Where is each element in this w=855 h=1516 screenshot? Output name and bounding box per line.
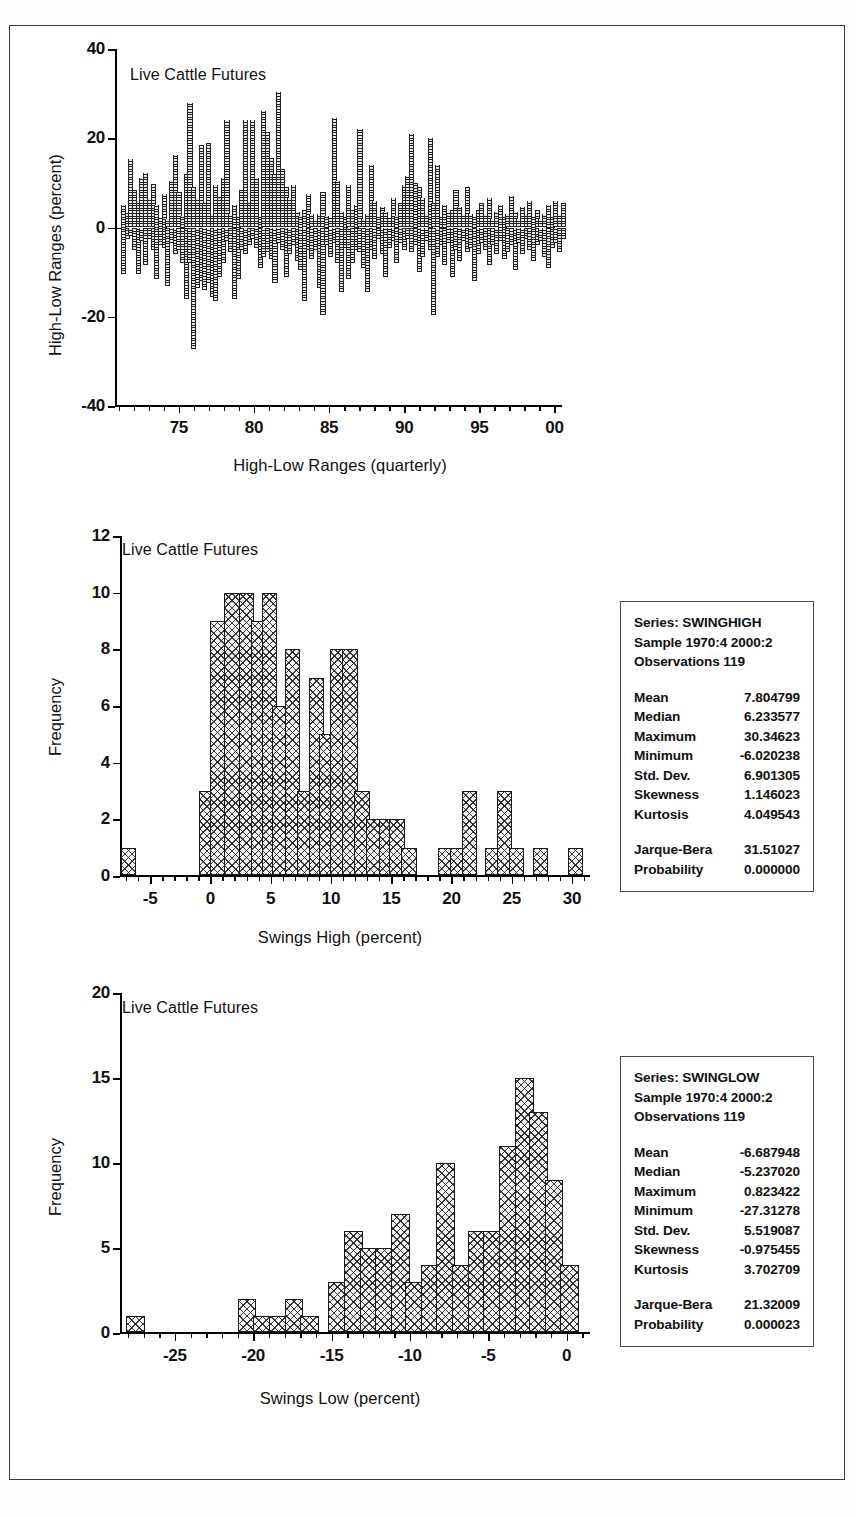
stats-table-swinglow: Mean-6.687948 Median-5.237020 Maximum0.8… [634,1127,800,1335]
stats-sample-label: Sample 1970:4 2000:2 [634,633,800,653]
y-axis-2 [120,993,122,1333]
x-tick-major [488,1332,489,1341]
y-tick [113,1248,120,1250]
stats-value: 0.000023 [728,1315,800,1335]
x-tick-minor [238,1332,239,1338]
y-tick [108,317,115,319]
stats-row: Median-5.237020 [634,1162,800,1182]
x-tick-minor [164,405,165,411]
plot-area-0: -40-2002040758085909500 [115,49,562,406]
x-tick-label: -20 [241,1346,265,1366]
stats-row: Maximum0.823422 [634,1182,800,1202]
x-tick-minor [295,875,296,881]
stats-label: Median [634,1162,728,1182]
range-bar-high [357,129,362,227]
stats-label: Jarque-Bera [634,840,728,860]
stats-row: Median6.233577 [634,707,800,727]
x-tick-label: 20 [442,889,460,909]
stats-row: Skewness-0.975455 [634,1240,800,1260]
stats-value: 4.049543 [728,805,800,825]
x-tick-minor [138,875,139,881]
stats-value: 6.233577 [728,707,800,727]
axis-title-x-0: High-Low Ranges (quarterly) [10,456,670,475]
stats-label: Minimum [634,1201,728,1221]
x-tick-major [554,405,555,413]
x-tick-minor [394,1332,395,1338]
y-tick-label: 20 [87,128,105,148]
y-tick-label: 8 [101,639,110,659]
x-tick-minor [174,875,175,881]
x-tick-major [332,1332,333,1341]
stats-label: Kurtosis [634,805,728,825]
stats-box-swinglow: Series: SWINGLOW Sample 1970:4 2000:2 Ob… [620,1056,814,1347]
stats-label: Mean [634,1143,728,1163]
stats-row: Probability0.000000 [634,860,800,880]
x-tick-minor [379,1332,380,1338]
x-tick-minor [494,405,495,411]
x-tick-major [329,405,330,413]
x-tick-major [331,875,332,884]
y-tick-label: 0 [101,866,110,886]
plot-area-2: 05101520-25-20-15-10-50 [120,993,590,1333]
y-tick-label: 15 [92,1068,110,1088]
x-tick-major [572,875,573,884]
stats-value: 1.146023 [728,785,800,805]
x-tick-minor [224,405,225,411]
y-tick [108,406,115,408]
stats-value: -6.687948 [728,1143,800,1163]
x-tick-label: 80 [245,418,263,438]
x-tick-minor [159,1332,160,1338]
stats-series-label: Series: SWINGHIGH [634,613,800,633]
stats-label: Maximum [634,1182,728,1202]
y-tick-label: -40 [81,396,105,416]
histogram-bar [126,1316,145,1332]
y-axis-1 [120,536,122,876]
x-tick-minor [441,1332,442,1338]
x-tick-minor [128,1332,129,1338]
x-tick-minor [347,1332,348,1338]
stats-label: Mean [634,688,728,708]
stats-label: Skewness [634,785,728,805]
x-tick-minor [144,1332,145,1338]
x-tick-minor [473,1332,474,1338]
stats-row: Std. Dev.5.519087 [634,1221,800,1241]
x-tick-minor [206,1332,207,1338]
y-tick-label: -20 [81,307,105,327]
x-tick-minor [363,1332,364,1338]
x-tick-minor [524,405,525,411]
y-tick [113,1078,120,1080]
histogram-bar [533,848,549,875]
x-tick-minor [222,875,223,881]
x-tick-label: 95 [470,418,488,438]
x-tick-minor [582,1332,583,1338]
y-tick-label: 0 [96,218,105,238]
x-tick-minor [439,875,440,881]
x-tick-label: -10 [398,1346,422,1366]
stats-row: Mean7.804799 [634,688,800,708]
range-bar-low [561,228,566,239]
x-tick-minor [149,405,150,411]
stats-value: 0.823422 [728,1182,800,1202]
x-tick-minor [209,405,210,411]
x-tick-label: 85 [320,418,338,438]
stats-row: Maximum30.34623 [634,727,800,747]
x-tick-minor [504,1332,505,1338]
x-tick-minor [434,405,435,411]
x-tick-major [271,875,272,884]
x-tick-minor [524,875,525,881]
stats-label: Kurtosis [634,1260,728,1280]
y-tick-label: 2 [101,809,110,829]
x-tick-minor [374,405,375,411]
x-tick-minor [463,875,464,881]
y-tick-label: 20 [92,983,110,1003]
x-tick-label: 0 [562,1346,571,1366]
stats-row: Kurtosis4.049543 [634,805,800,825]
stats-row: Skewness1.146023 [634,785,800,805]
figure-frame: High-Low Ranges (percent) Live Cattle Fu… [9,25,845,1480]
x-tick-minor [415,875,416,881]
x-tick-minor [464,405,465,411]
stats-table-swinghigh: Mean7.804799 Median6.233577 Maximum30.34… [634,672,800,880]
y-tick [113,536,120,538]
x-tick-label: -5 [143,889,158,909]
x-tick-major [391,875,392,884]
